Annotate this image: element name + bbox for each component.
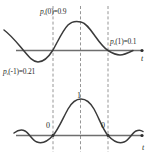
- dashed-sample-lines: [53, 6, 108, 152]
- label-peak-one: 1: [77, 92, 81, 100]
- axis-label-t-bottom: t: [142, 144, 144, 152]
- axis-label-t-top: t: [141, 55, 143, 63]
- label-zero-right: 0: [101, 122, 105, 130]
- top-axis-endpoint-dot: [140, 49, 143, 52]
- two-panel-sampling-figure: [0, 0, 156, 161]
- label-zero-left: 0: [46, 122, 50, 130]
- label-sample-minus-one-value: (-1)=0.21: [8, 67, 35, 76]
- label-sample-zero-value: (0)=0.9: [45, 7, 66, 16]
- label-sample-zero: ps(0)=0.9: [40, 8, 66, 16]
- bottom-axis-endpoint-dot: [140, 134, 143, 137]
- label-sample-minus-one: ps(-1)=0.21: [3, 68, 35, 76]
- label-sample-plus-one-value: (1)=0.1: [115, 37, 136, 46]
- bottom-panel: [14, 99, 144, 143]
- label-sample-plus-one: ps(1)=0.1: [110, 38, 136, 46]
